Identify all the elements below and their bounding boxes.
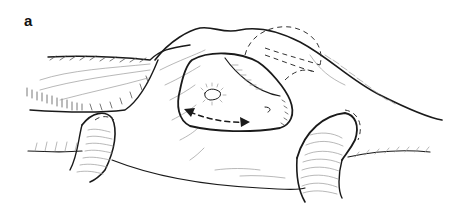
central-opening (178, 53, 292, 131)
right-tube (348, 147, 430, 157)
anatomical-illustration (0, 0, 454, 217)
double-headed-arrow (184, 108, 250, 127)
upper-left-tube (27, 45, 190, 112)
lower-left-tube (28, 142, 82, 152)
orifice-mark (201, 83, 270, 112)
left-vessel-stump (70, 113, 115, 182)
